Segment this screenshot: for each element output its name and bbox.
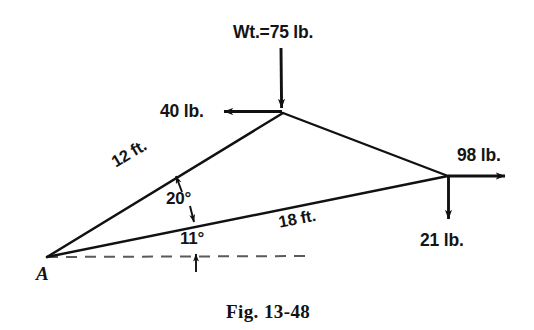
figure-container: Wt.=75 lb. 40 lb. 98 lb. 21 lb. 12 ft. 1… (0, 0, 534, 330)
member-18ft-line (47, 176, 448, 257)
weight-force-arrow (281, 48, 282, 108)
figure-caption: Fig. 13-48 (226, 301, 310, 323)
horizontal-reference-line (47, 256, 313, 257)
angle-11-label: 11° (180, 229, 204, 249)
force-diagram-svg (0, 0, 534, 330)
tension-force-label: 98 lb. (457, 145, 501, 166)
angle-20-label: 20° (166, 189, 191, 209)
vertical-load-label: 21 lb. (420, 230, 464, 251)
member-12ft-line (47, 113, 283, 257)
vertex-label-a: A (36, 263, 48, 285)
member-top-chord-line (283, 113, 448, 176)
horizontal-load-label: 40 lb. (160, 101, 204, 122)
weight-force-label: Wt.=75 lb. (233, 22, 313, 43)
